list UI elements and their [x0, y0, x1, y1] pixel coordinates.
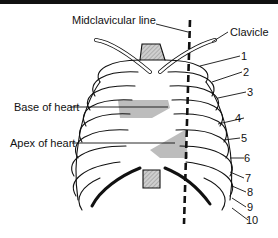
rib-label-3: 3: [247, 86, 253, 98]
midclavicular-line-label: Midclavicular line: [72, 14, 156, 26]
rib-label-5: 5: [241, 132, 247, 144]
rib-label-10: 10: [246, 214, 258, 226]
rib-label-9: 9: [247, 201, 253, 213]
rib-label-4: 4: [235, 112, 241, 124]
rib-label-6: 6: [244, 152, 250, 164]
base-of-heart-label: Base of heart: [14, 101, 79, 113]
rib-label-8: 8: [247, 186, 253, 198]
rib-label-1: 1: [241, 50, 247, 62]
heart-base-shade: [118, 100, 170, 118]
heart-apex-shade: [150, 130, 188, 158]
clavicle-label: Clavicle: [230, 26, 269, 38]
apex-of-heart-label: Apex of heart: [10, 137, 75, 149]
rib-label-2: 2: [243, 66, 249, 78]
rib-label-7: 7: [245, 172, 251, 184]
